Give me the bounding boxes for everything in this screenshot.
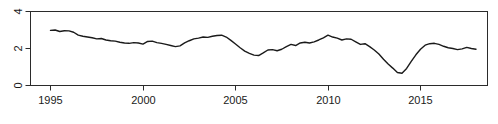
x-tick-label-1995: 1995 [38,94,62,106]
line-chart-plot: 4 2 0 1995 2000 2005 2010 2015 [0,0,498,124]
y-tick-label-0: 0 [12,82,24,88]
y-tick-label-4: 4 [12,8,24,14]
x-tick-label-2010: 2010 [316,94,340,106]
x-tick-label-2005: 2005 [223,94,247,106]
chart-container: 4 2 0 1995 2000 2005 2010 2015 [0,0,498,124]
x-tick-label-2000: 2000 [131,94,155,106]
y-tick-label-2: 2 [12,45,24,51]
x-tick-label-2015: 2015 [408,94,432,106]
